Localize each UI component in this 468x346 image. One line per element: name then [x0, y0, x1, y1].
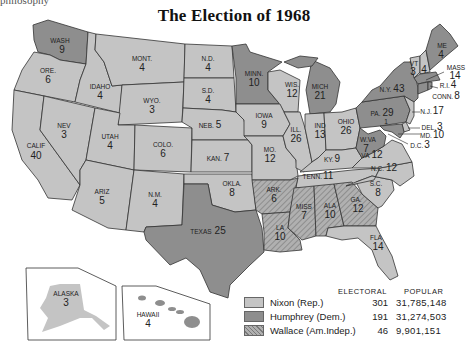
- label-ri: R.I.4: [440, 79, 457, 90]
- legend-candidate-name: Nixon (Rep.): [270, 297, 323, 308]
- label-split-note: 1: [384, 118, 388, 125]
- label-il: ILL.26: [290, 126, 302, 144]
- legend-popular-votes: 31,785,148: [396, 297, 447, 308]
- legend-row-humphrey: Humphrey (Dem.) 191 31,274,503: [244, 311, 468, 323]
- label-fl: FLA14: [370, 234, 384, 252]
- label-al: ALA10: [324, 202, 337, 220]
- legend-electoral-votes: 301: [372, 297, 388, 308]
- legend-swatch-nixon: [244, 297, 264, 308]
- legend-candidate-name: Humphrey (Dem.): [270, 311, 346, 322]
- legend-row-nixon: Nixon (Rep.) 301 31,785,148: [244, 297, 468, 309]
- label-nj: N.J.17: [420, 105, 444, 116]
- legend-swatch-humphrey: [244, 311, 264, 322]
- label-wi: WIS.12: [285, 81, 299, 99]
- hawaii-inset-frame: [122, 286, 210, 340]
- legend-swatch-wallace: [244, 325, 264, 336]
- label-in: IND13: [314, 122, 326, 140]
- legend-candidate-name: Wallace (Am.Indep.): [270, 325, 356, 336]
- legend-popular-votes: 31,274,503: [396, 311, 447, 322]
- legend-popular-header: POPULAR: [404, 287, 443, 296]
- legend-electoral-votes: 191: [372, 311, 388, 322]
- legend-electoral-votes: 46: [372, 325, 388, 336]
- state-ct: [418, 82, 428, 94]
- label-nh: 4: [421, 64, 427, 75]
- label-ct: CONN.8: [432, 90, 460, 101]
- us-election-map: WASH9 ORE.6 CALIF40 IDAHO4 NEV3 MONT.4 W…: [0, 0, 468, 346]
- legend-electoral-header: ELECTORAL: [338, 287, 387, 296]
- label-dc: D.C.3: [410, 139, 430, 150]
- label-mo: MO.12: [264, 146, 276, 164]
- state-fl: [326, 226, 398, 280]
- legend-popular-votes: 9,901,151: [396, 325, 441, 336]
- legend-row-wallace: Wallace (Am.Indep.) 46 9,901,151: [244, 325, 468, 337]
